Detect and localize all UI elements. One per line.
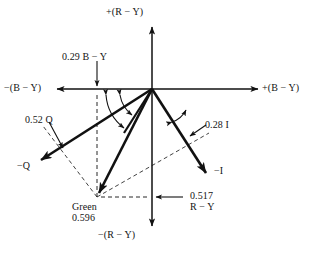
axis-label-positive-b-minus-y: +(B − Y) bbox=[262, 82, 299, 94]
label-b-y-component: 0.29 B − Y bbox=[62, 51, 107, 63]
label-green-name: Green bbox=[72, 201, 97, 213]
label-r-y-component-unit: R − Y bbox=[190, 201, 215, 213]
axis-label-negative-r-minus-y: −(R − Y) bbox=[98, 229, 135, 241]
axis-label-positive-r-minus-y: +(R − Y) bbox=[106, 6, 143, 18]
vector-diagram-svg bbox=[0, 0, 318, 257]
label-i-magnitude: 0.28 I bbox=[205, 119, 229, 131]
leader-q-magnitude bbox=[49, 122, 63, 148]
dashed-parallelogram-side-left bbox=[43, 126, 97, 197]
angle-arc-right bbox=[172, 110, 186, 122]
label-minus-i: −I bbox=[214, 165, 223, 177]
figure-canvas: +(R − Y) −(R − Y) −(B − Y) +(B − Y) 0.29… bbox=[0, 0, 318, 257]
leader-i-magnitude bbox=[190, 125, 206, 136]
label-green-value: 0.596 bbox=[72, 212, 95, 224]
axis-label-negative-b-minus-y: −(B − Y) bbox=[4, 82, 41, 94]
label-r-y-component-value: 0.517 bbox=[190, 190, 213, 202]
label-minus-q: −Q bbox=[17, 160, 30, 172]
label-q-magnitude: 0.52 Q bbox=[25, 114, 53, 126]
